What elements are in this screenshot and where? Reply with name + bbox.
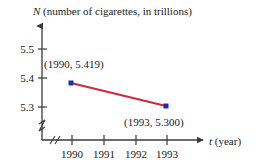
y-axis-break-icon [39, 120, 45, 131]
x-tick-label-1992: 1992 [119, 149, 153, 160]
y-tick-label-5-4: 5.4 [8, 73, 34, 84]
data-point-marker-1990 [69, 81, 74, 86]
x-axis-title: t (year) [209, 136, 241, 147]
annotation-point-1993: (1993, 5.300) [124, 117, 184, 128]
chart-figure: N (number of cigarettes, in trillions) t… [0, 0, 260, 167]
y-tick-label-5-3: 5.3 [8, 102, 34, 113]
y-axis-title-text: (number of cigarettes, in trillions) [43, 5, 192, 17]
x-tick-label-1993: 1993 [150, 149, 184, 160]
y-tick-label-5-5: 5.5 [8, 44, 34, 55]
x-tick-label-1990: 1990 [55, 149, 89, 160]
x-axis-title-text: (year) [215, 135, 241, 147]
x-axis-symbol: t [209, 135, 212, 147]
data-line-segment [71, 83, 166, 106]
x-tick-label-1991: 1991 [87, 149, 121, 160]
annotation-point-1990: (1990, 5.419) [44, 59, 104, 70]
data-point-marker-1993 [164, 104, 169, 109]
y-axis-title: N (number of cigarettes, in trillions) [33, 6, 192, 17]
y-axis-symbol: N [33, 5, 40, 17]
